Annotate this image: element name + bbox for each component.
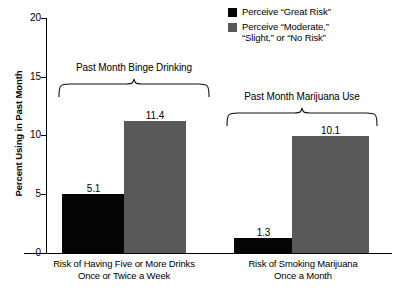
bar-chart: Perceive “Great Risk” Perceive “Moderate… — [0, 0, 395, 299]
group-label-binge-drinking: Past Month Binge Drinking — [59, 62, 209, 73]
y-tick-label-0-wrap: 0 — [14, 248, 41, 258]
bar-binge-moderate-risk — [124, 121, 186, 253]
y-axis-line — [46, 18, 47, 254]
bar-marijuana-great-risk — [234, 238, 293, 253]
y-tick-label-10-wrap: 10 — [14, 130, 41, 140]
bar-marijuana-moderate-risk — [292, 136, 369, 253]
y-tick-label-10: 10 — [19, 130, 41, 140]
y-tick-label-20: 20 — [19, 13, 41, 23]
group-bracket-marijuana-use — [226, 108, 378, 126]
category-caption-marijuana: Risk of Smoking Marijuana Once a Month — [219, 258, 387, 281]
bar-value-binge-great-risk: 5.1 — [62, 184, 125, 194]
legend-swatch-gray — [228, 23, 237, 32]
y-tick-label-5-wrap: 5 — [14, 189, 41, 199]
y-tick-label-15-wrap: 15 — [14, 72, 41, 82]
legend-label-great-risk: Perceive “Great Risk” — [242, 6, 331, 18]
group-bracket-binge-drinking — [58, 79, 210, 97]
legend-entry-great-risk: Perceive “Great Risk” — [228, 6, 393, 18]
y-tick-label-20-wrap: 20 — [14, 13, 41, 23]
legend-swatch-dark — [228, 8, 237, 17]
category-caption-binge-drinking: Risk of Having Five or More Drinks Once … — [32, 258, 216, 281]
y-tick-label-0: 0 — [19, 248, 41, 258]
bar-value-marijuana-moderate-risk: 10.1 — [292, 126, 369, 136]
legend-entry-moderate-risk: Perceive “Moderate,” “Slight,” or “No Ri… — [228, 21, 393, 44]
y-tick-mark-0 — [41, 253, 46, 254]
bar-binge-great-risk — [62, 194, 125, 253]
legend-label-moderate-risk: Perceive “Moderate,” “Slight,” or “No Ri… — [242, 21, 329, 44]
group-label-marijuana-use: Past Month Marijuana Use — [228, 91, 376, 102]
y-tick-mark-15 — [41, 77, 46, 78]
bar-value-binge-moderate-risk: 11.4 — [124, 111, 186, 121]
y-tick-label-15: 15 — [19, 72, 41, 82]
x-axis-line — [24, 253, 392, 254]
y-tick-mark-5 — [41, 194, 46, 195]
bar-value-marijuana-great-risk: 1.3 — [234, 228, 293, 238]
chart-legend: Perceive “Great Risk” Perceive “Moderate… — [228, 6, 393, 47]
y-tick-label-5: 5 — [19, 189, 41, 199]
y-tick-mark-10 — [41, 135, 46, 136]
y-tick-mark-20 — [41, 18, 46, 19]
